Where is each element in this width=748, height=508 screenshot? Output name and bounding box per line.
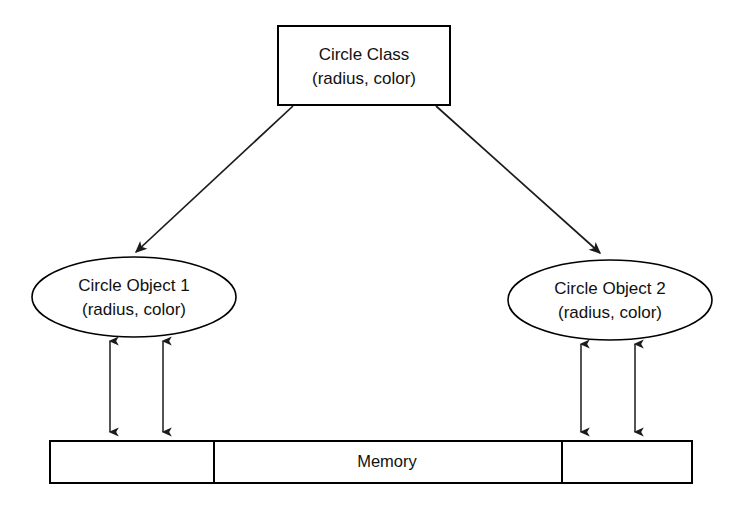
edge-class-to-object-1 bbox=[136, 106, 293, 252]
memory-segment-left[interactable] bbox=[50, 441, 214, 483]
memory-label: Memory bbox=[357, 452, 417, 470]
class-box[interactable]: Circle Class (radius, color) bbox=[278, 26, 450, 105]
memory-bar[interactable]: Memory bbox=[50, 441, 692, 483]
diagram-canvas: Circle Class (radius, color) Circle Obje… bbox=[0, 0, 748, 508]
edge-class-to-object-2 bbox=[436, 106, 600, 253]
class-box-line2: (radius, color) bbox=[312, 69, 416, 88]
circle-object-2-line2: (radius, color) bbox=[558, 303, 662, 322]
circle-object-1-node[interactable]: Circle Object 1 (radius, color) bbox=[32, 257, 236, 337]
class-box-rect bbox=[278, 26, 450, 105]
circle-object-1-line1: Circle Object 1 bbox=[78, 276, 189, 295]
class-box-line1: Circle Class bbox=[319, 45, 410, 64]
circle-object-2-line1: Circle Object 2 bbox=[554, 279, 665, 298]
circle-object-2-node[interactable]: Circle Object 2 (radius, color) bbox=[508, 260, 712, 340]
class-to-object-1-arrow bbox=[136, 106, 293, 252]
edges-object-1-to-memory bbox=[110, 341, 163, 432]
circle-object-2-ellipse bbox=[508, 260, 712, 340]
circle-object-1-ellipse bbox=[32, 257, 236, 337]
diagram-svg: Circle Class (radius, color) Circle Obje… bbox=[0, 0, 748, 508]
class-to-object-2-arrow bbox=[436, 106, 600, 253]
circle-object-1-line2: (radius, color) bbox=[82, 300, 186, 319]
edges-object-2-to-memory bbox=[581, 344, 635, 432]
memory-segment-right[interactable] bbox=[562, 441, 692, 483]
